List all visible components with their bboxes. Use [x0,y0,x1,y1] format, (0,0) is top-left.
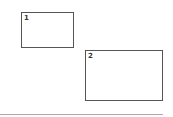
region-box-2[interactable]: 2 [85,50,163,101]
box-label-2: 2 [88,52,93,60]
box-label-1: 1 [24,14,29,22]
region-box-1[interactable]: 1 [21,12,74,48]
bottom-divider [0,114,163,115]
